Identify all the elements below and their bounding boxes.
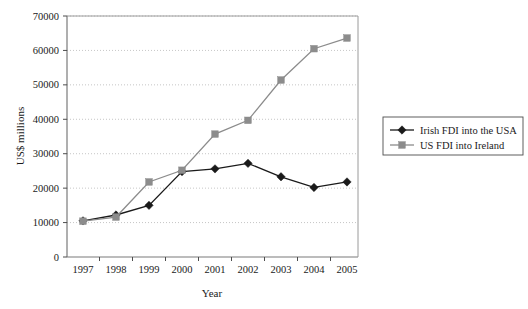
y-axis-ticks: 010000200003000040000500006000070000 — [33, 11, 67, 263]
fdi-line-chart: 010000200003000040000500006000070000 199… — [0, 0, 528, 309]
data-point-marker — [311, 45, 318, 52]
y-axis-title: US$ millions — [14, 107, 26, 165]
data-point-marker — [344, 35, 351, 42]
x-axis-ticks: 199719981999200020012002200320042005 — [73, 257, 358, 275]
x-tick-label: 2004 — [304, 264, 326, 275]
data-point-marker — [245, 117, 252, 124]
y-tick-label: 60000 — [33, 45, 59, 56]
legend-label: Irish FDI into the USA — [420, 125, 517, 136]
y-tick-label: 30000 — [33, 148, 59, 159]
x-tick-label: 1997 — [73, 264, 94, 275]
legend-label: US FDI into Ireland — [420, 140, 505, 151]
x-axis-title: Year — [202, 287, 223, 299]
data-point-marker — [278, 77, 285, 84]
data-point-marker — [179, 167, 186, 174]
x-tick-label: 2000 — [172, 264, 193, 275]
data-point-marker — [80, 218, 87, 225]
x-tick-label: 2003 — [271, 264, 292, 275]
chart-container: 010000200003000040000500006000070000 199… — [0, 0, 528, 309]
x-tick-label: 2002 — [238, 264, 259, 275]
x-tick-label: 1998 — [106, 264, 127, 275]
chart-legend: Irish FDI into the USAUS FDI into Irelan… — [383, 117, 523, 155]
y-tick-label: 10000 — [33, 217, 59, 228]
y-tick-label: 40000 — [33, 114, 59, 125]
x-tick-label: 1999 — [139, 264, 160, 275]
y-tick-label: 70000 — [33, 11, 59, 22]
x-tick-label: 2005 — [337, 264, 358, 275]
y-tick-label: 50000 — [33, 79, 59, 90]
data-point-marker — [399, 142, 406, 149]
data-point-marker — [212, 131, 219, 138]
data-point-marker — [113, 214, 120, 221]
y-tick-label: 0 — [54, 252, 59, 263]
x-tick-label: 2001 — [205, 264, 226, 275]
data-point-marker — [146, 179, 153, 186]
y-tick-label: 20000 — [33, 183, 59, 194]
